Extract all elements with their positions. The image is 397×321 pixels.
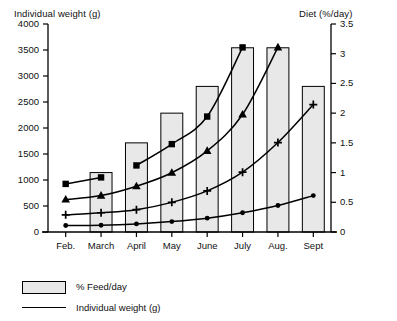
marker-square <box>133 162 139 168</box>
axis-ticks <box>43 24 336 237</box>
marker-triangle <box>274 43 283 51</box>
marker-square <box>169 141 175 147</box>
category-label-march: March <box>83 240 118 251</box>
marker-square-circle <box>62 181 68 187</box>
chart-figure: Individual weight (g) Diet (%/day) 05001… <box>0 0 397 321</box>
right-tick-label: 0.5 <box>340 196 353 207</box>
category-label-april: April <box>119 240 154 251</box>
category-label-june: June <box>190 240 225 251</box>
right-tick-label: 1.5 <box>340 137 353 148</box>
category-label-may: May <box>154 240 189 251</box>
right-tick-label: 3 <box>340 48 345 59</box>
right-tick-label: 1 <box>340 167 345 178</box>
marker-dot <box>99 223 104 228</box>
left-tick-label: 4000 <box>0 18 39 29</box>
line-series-1 <box>136 47 242 165</box>
plot-area <box>0 0 397 321</box>
marker-square <box>239 44 245 50</box>
left-tick-label: 3000 <box>0 70 39 81</box>
marker-dot <box>134 222 139 227</box>
marker-dot <box>311 193 316 198</box>
left-tick-label: 2500 <box>0 96 39 107</box>
marker-dot <box>276 203 281 208</box>
legend-bars-label: % Feed/day <box>76 281 127 292</box>
right-tick-label: 2.5 <box>340 77 353 88</box>
category-label-july: July <box>225 240 260 251</box>
left-tick-label: 3500 <box>0 44 39 55</box>
marker-dot <box>205 216 210 221</box>
left-tick-label: 2000 <box>0 122 39 133</box>
marker-dot <box>63 223 68 228</box>
legend-line-swatch <box>22 307 66 308</box>
right-tick-label: 2 <box>340 107 345 118</box>
left-tick-label: 0 <box>0 226 39 237</box>
category-label-sept: Sept <box>296 240 331 251</box>
marker-dot <box>169 219 174 224</box>
marker-plus <box>62 211 70 219</box>
marker-square <box>204 113 210 119</box>
left-tick-label: 1000 <box>0 174 39 185</box>
marker-dot <box>240 210 245 215</box>
bar-july <box>232 48 254 232</box>
left-tick-label: 1500 <box>0 148 39 159</box>
category-label-aug: Aug. <box>260 240 295 251</box>
category-label-feb: Feb. <box>48 240 83 251</box>
marker-square-circle <box>98 174 104 180</box>
right-tick-label: 3.5 <box>340 18 353 29</box>
legend-line-label: Individual weight (g) <box>76 302 161 313</box>
bars-group <box>90 48 324 232</box>
right-tick-label: 0 <box>340 226 345 237</box>
left-tick-label: 500 <box>0 200 39 211</box>
bar-june <box>196 86 218 232</box>
legend-bars-swatch <box>22 281 66 294</box>
